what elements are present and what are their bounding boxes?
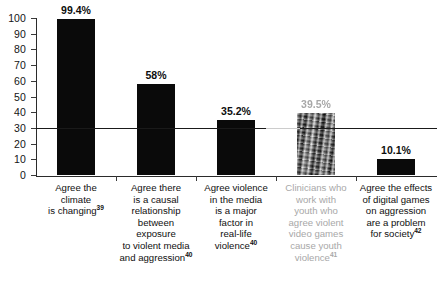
bar: 10.1% (377, 159, 415, 175)
category-labels: Agree theclimateis changing39Agree there… (36, 182, 437, 294)
category-label-line: Agree the effects (358, 182, 434, 194)
category-label-line: for society42 (358, 228, 434, 240)
category-label-line: work with (278, 194, 354, 206)
category-label-line: of digital games (358, 194, 434, 206)
category-label-line: on aggression (358, 205, 434, 217)
y-axis-tick-label: 40 (0, 106, 26, 118)
footnote-marker: 39 (97, 204, 104, 211)
footnote-marker: 41 (330, 250, 337, 257)
category-label-line: Agree violence (198, 182, 274, 194)
footnote-marker: 42 (414, 227, 421, 234)
category-label: Agree violencein the mediais a majorfact… (196, 182, 276, 252)
category-label-line: Agree there (118, 182, 194, 194)
category-label-line: violence41 (278, 252, 354, 264)
plot-area: 99.4%58%35.2%39.5%10.1% (36, 18, 436, 175)
x-axis-separator (116, 176, 117, 181)
x-axis-separator (356, 176, 357, 181)
y-axis-tick-label: 70 (0, 59, 26, 71)
category-label-line: is changing39 (38, 205, 114, 217)
bar: 99.4% (57, 19, 95, 175)
category-label-line: Clinicians who (278, 182, 354, 194)
bar: 39.5% (297, 113, 335, 175)
footnote-marker: 40 (185, 250, 192, 257)
x-axis-separator (276, 176, 277, 181)
category-label-line: are a problem (358, 217, 434, 229)
category-label-line: factor in (198, 217, 274, 229)
bar-chart: 1009080706050403020100 99.4%58%35.2%39.5… (0, 0, 443, 298)
bar: 58% (137, 84, 175, 175)
category-label-line: in the media (198, 194, 274, 206)
y-axis-tick-label: 50 (0, 91, 26, 103)
category-label-line: youth who (278, 205, 354, 217)
category-label-line: agree violent (278, 217, 354, 229)
category-label-line: cause youth (278, 240, 354, 252)
y-axis-tick-label: 10 (0, 153, 26, 165)
category-label-line: video games (278, 228, 354, 240)
category-label-line: is a causal (118, 194, 194, 206)
footnote-marker: 40 (250, 239, 257, 246)
y-axis-tick-label: 100 (0, 12, 26, 24)
y-axis-tick-label: 30 (0, 122, 26, 134)
category-label: Clinicians whowork withyouth whoagree vi… (276, 182, 356, 263)
category-label-line: relationship (118, 205, 194, 217)
bar-value-label: 39.5% (301, 98, 331, 110)
category-label-line: Agree the (38, 182, 114, 194)
bar-value-label: 99.4% (61, 4, 91, 16)
category-label-line: violence40 (198, 240, 274, 252)
category-label: Agree thereis a causalrelationshipbetwee… (116, 182, 196, 263)
category-label: Agree theclimateis changing39 (36, 182, 116, 217)
y-axis-tick-label: 0 (0, 169, 26, 181)
category-label-line: and aggression40 (118, 252, 194, 264)
y-axis-tick-label: 80 (0, 43, 26, 55)
reference-line (36, 128, 437, 129)
category-label-line: real-life (198, 228, 274, 240)
bar-value-label: 58% (145, 69, 166, 81)
category-label-line: between exposure (118, 217, 194, 240)
x-axis-line (36, 176, 437, 177)
reference-line-gap (266, 128, 300, 129)
x-axis-separator (196, 176, 197, 181)
y-axis-tick-label: 60 (0, 75, 26, 87)
bar-value-label: 10.1% (381, 144, 411, 156)
category-label: Agree the effectsof digital gameson aggr… (356, 182, 436, 240)
category-label-line: is a major (198, 205, 274, 217)
bar-value-label: 35.2% (221, 105, 251, 117)
y-axis-tick-label: 20 (0, 138, 26, 150)
y-axis-tick (31, 175, 36, 176)
y-axis-tick-label: 90 (0, 28, 26, 40)
category-label-line: to violent media (118, 240, 194, 252)
